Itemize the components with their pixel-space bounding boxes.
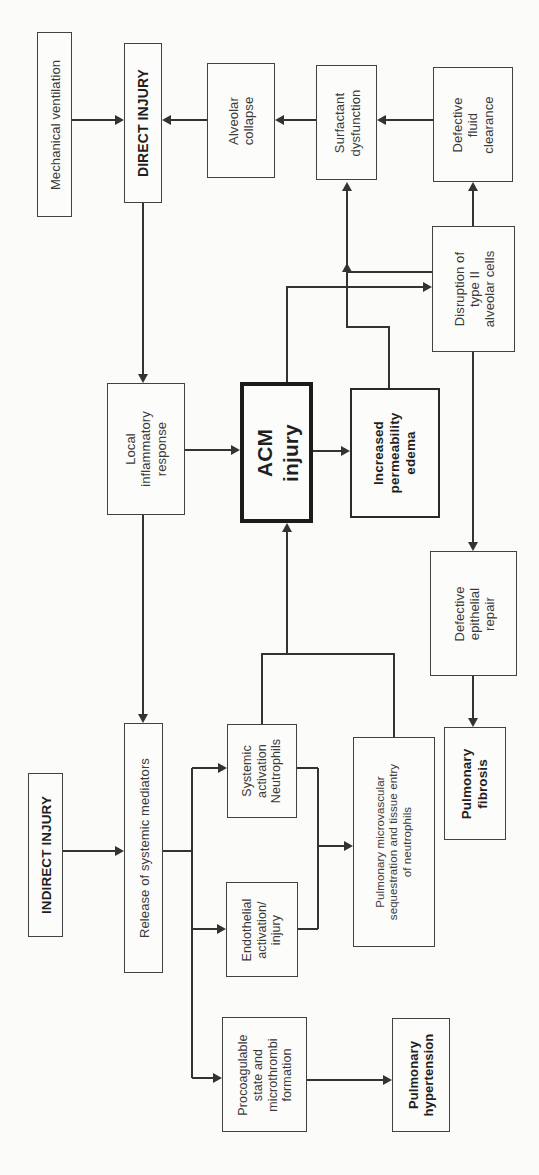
node-local-inflammatory-response-label: Local inflammatory response	[108, 384, 184, 514]
edge-disruption-to-epithelialrepair-arrowhead	[468, 542, 478, 551]
node-pulmonary-microvascular-label: Pulmonary microvascular sequestration an…	[354, 739, 434, 945]
node-pulmonary-hypertension-label: Pulmonary hypertension	[393, 1020, 449, 1130]
node-defective-epithelial-repair-label: Defective epithelial repair	[431, 553, 516, 675]
edge-acm-to-disruption-arrowhead	[423, 282, 432, 292]
edge-release-to-procoagulable-arrowhead	[213, 1073, 222, 1083]
edge-disruption-to-fluidclearance-line	[472, 191, 474, 226]
node-endothelial-activation-injury: Endothelial activation/ injury	[226, 882, 298, 977]
node-surfactant-dysfunction-label: Surfactant dysfunction	[317, 66, 376, 179]
edge-endothelial-out-segment-h	[298, 928, 318, 930]
edge-disruption-to-fluidclearance-arrowhead	[468, 182, 478, 191]
edge-localinflam-to-release-arrowhead	[138, 714, 148, 723]
edge-procoagulable-to-hypertension-line	[307, 1079, 383, 1081]
node-release-systemic-mediators-label: Release of systemic mediators	[125, 725, 162, 972]
edge-direct-to-localinflam-line	[142, 203, 144, 374]
node-systemic-activation-neutrophils: Systemic activation Neutrophils	[227, 724, 297, 818]
node-mechanical-ventilation: Mechanical ventilation	[37, 32, 72, 217]
node-increased-permeability-edema: Increased permeability edema	[350, 388, 440, 518]
edge-direct-to-localinflam-arrowhead	[138, 374, 148, 383]
edge-edema-to-junction-segment-h	[346, 326, 390, 328]
edge-merge-to-surfactant-line	[346, 191, 348, 327]
node-defective-fluid-clearance: Defective fluid clearance	[433, 67, 513, 182]
edge-surfactant-to-alveolar-arrowhead	[275, 115, 284, 125]
edge-alveolar-to-direct-arrowhead	[162, 115, 171, 125]
edge-indirect-to-release-arrowhead	[115, 846, 124, 856]
edge-localinflam-to-acm-arrowhead	[231, 445, 240, 455]
edge-release-branch-trunk	[191, 768, 193, 1078]
node-increased-permeability-edema-label: Increased permeability edema	[352, 390, 438, 516]
node-disruption-type-ii-label: Disruption of type II alveolar cells	[433, 227, 514, 351]
edge-edema-to-junction-segment-v	[388, 327, 390, 388]
edge-merge-to-microvascular-arrowhead	[344, 841, 353, 851]
node-acm-injury: ACM injury	[240, 382, 313, 523]
node-alveolar-collapse: Alveolar collapse	[207, 63, 275, 178]
edge-microvascular-to-acm-segment-v	[393, 654, 395, 737]
flowchart-canvas: Mechanical ventilation DIRECT INJURY Alv…	[0, 0, 539, 1175]
edge-release-to-systemicactivation-line	[192, 767, 218, 769]
edge-systemicactivation-out-segment-h	[297, 767, 318, 769]
edge-surfactant-to-alveolar-line	[284, 119, 316, 121]
edge-systemicactivation-to-acm-segment-v	[261, 654, 263, 724]
node-acm-injury-label: ACM injury	[243, 385, 310, 520]
edge-release-branch-stem	[163, 850, 192, 852]
edge-localinflam-to-release-line	[142, 515, 144, 714]
edge-acm-merge-segment-h	[261, 653, 395, 655]
node-mechanical-ventilation-label: Mechanical ventilation	[38, 33, 71, 216]
node-pulmonary-hypertension: Pulmonary hypertension	[392, 1018, 450, 1132]
node-pulmonary-fibrosis: Pulmonary fibrosis	[444, 727, 506, 840]
edge-acm-to-edema-arrowhead	[341, 446, 350, 456]
node-pulmonary-fibrosis-label: Pulmonary fibrosis	[445, 729, 505, 838]
edge-procoagulable-to-hypertension-arrowhead	[383, 1075, 392, 1085]
edge-release-to-systemicactivation-arrowhead	[218, 763, 227, 773]
edge-merge-to-microvascular-line	[318, 845, 344, 847]
edge-acm-to-edema-line	[313, 450, 341, 452]
edge-release-to-endothelial-arrowhead	[217, 924, 226, 934]
node-disruption-type-ii-alveolar-cells: Disruption of type II alveolar cells	[432, 226, 515, 352]
node-defective-fluid-clearance-label: Defective fluid clearance	[434, 68, 512, 181]
edge-alveolar-to-direct-line	[171, 119, 207, 121]
edge-acm-to-disruption-segment-h	[286, 286, 423, 288]
edge-fluidclearance-to-surfactant-arrowhead	[377, 115, 386, 125]
edge-localinflam-to-acm-line	[185, 449, 231, 451]
node-release-systemic-mediators: Release of systemic mediators	[124, 723, 163, 973]
edge-microvascular-merge-trunk	[317, 768, 319, 929]
node-procoagulable-state: Procoagulable state and microthrombi for…	[222, 1017, 307, 1132]
node-systemic-activation-neutrophils-label: Systemic activation Neutrophils	[228, 725, 296, 817]
node-procoagulable-state-label: Procoagulable state and microthrombi for…	[223, 1019, 306, 1130]
node-direct-injury-label: DIRECT INJURY	[125, 44, 161, 202]
node-defective-epithelial-repair: Defective epithelial repair	[430, 551, 517, 676]
edge-disruption-to-epithelialrepair-line	[472, 352, 474, 542]
node-surfactant-dysfunction: Surfactant dysfunction	[316, 65, 377, 180]
node-indirect-injury-label: INDIRECT INJURY	[29, 774, 62, 936]
edge-mechvent-to-direct-arrowhead	[115, 115, 124, 125]
edge-indirect-to-release-line	[63, 850, 115, 852]
node-local-inflammatory-response: Local inflammatory response	[107, 383, 185, 515]
edge-release-to-procoagulable-line	[192, 1077, 213, 1079]
edge-epithelialrepair-to-fibrosis-line	[472, 676, 474, 718]
node-indirect-injury: INDIRECT INJURY	[28, 773, 63, 937]
edge-fluidclearance-to-surfactant-line	[386, 119, 433, 121]
edge-epithelialrepair-to-fibrosis-arrowhead	[468, 718, 478, 727]
edge-mechvent-to-direct-line	[72, 119, 115, 121]
node-alveolar-collapse-label: Alveolar collapse	[208, 64, 274, 177]
edge-release-to-endothelial-line	[192, 928, 217, 930]
edge-merge-to-acm-arrowhead	[282, 523, 292, 532]
node-endothelial-activation-injury-label: Endothelial activation/ injury	[227, 883, 297, 976]
node-direct-injury: DIRECT INJURY	[124, 43, 162, 203]
edge-disruption-to-junction-line	[347, 271, 432, 273]
edge-merge-to-surfactant-arrowhead	[342, 182, 352, 191]
edge-merge-to-acm-line	[286, 532, 288, 654]
node-pulmonary-microvascular-sequestration: Pulmonary microvascular sequestration an…	[353, 737, 435, 947]
edge-acm-to-disruption-segment-v	[286, 287, 288, 382]
